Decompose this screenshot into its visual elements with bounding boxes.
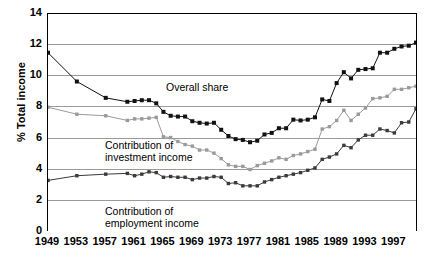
- x-tick-label: 1985: [295, 236, 319, 247]
- plot-area: Overall share Contribution of investment…: [47, 13, 417, 231]
- series-1: [48, 84, 416, 171]
- y-tick-label: 4: [20, 163, 42, 174]
- x-tick-label: 1981: [266, 236, 290, 247]
- x-tick-label: 1993: [352, 236, 376, 247]
- y-axis-tick-labels: 02468101214: [16, 0, 42, 267]
- y-tick-label: 6: [20, 132, 42, 143]
- x-tick-label: 1969: [179, 236, 203, 247]
- y-tick-label: 10: [20, 69, 42, 80]
- x-tick-label: 1997: [381, 236, 405, 247]
- y-tick-label: 8: [20, 100, 42, 111]
- annotation-overall-share: Overall share: [166, 82, 228, 94]
- x-tick-label: 1973: [208, 236, 232, 247]
- plot-svg: [48, 13, 416, 231]
- series-0: [48, 41, 416, 145]
- y-tick-label: 14: [20, 7, 42, 18]
- x-tick-label: 1953: [64, 236, 88, 247]
- annotation-employment-income: Contribution of employment income: [105, 206, 199, 229]
- x-tick-label: 1957: [92, 236, 116, 247]
- x-tick-label: 1961: [121, 236, 145, 247]
- x-tick-label: 1977: [237, 236, 261, 247]
- series-2: [48, 107, 416, 187]
- chart-container: % Total income 02468101214 Overall share…: [0, 0, 427, 267]
- x-tick-label: 1965: [150, 236, 174, 247]
- annotation-investment-income: Contribution of investment income: [105, 140, 193, 163]
- x-axis-tick-labels: 1949195319571961196519691973197719811985…: [0, 236, 427, 254]
- y-tick-label: 12: [20, 38, 42, 49]
- x-tick-label: 1949: [35, 236, 59, 247]
- x-tick-label: 1989: [323, 236, 347, 247]
- y-tick-label: 2: [20, 194, 42, 205]
